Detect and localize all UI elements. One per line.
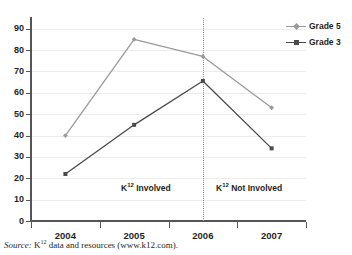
source-suffix: data and resources (www.k12.com). [46,240,178,250]
legend-label: Grade 5 [306,21,341,31]
y-tick-mark [26,114,31,115]
source-label: Source: [4,240,32,250]
chart-legend: Grade 5Grade 3 [286,18,352,50]
legend-item-grade-5: Grade 5 [286,18,352,34]
y-tick-mark [26,221,31,222]
y-tick-mark [26,71,31,72]
chart-figure: 0102030405060708090 K12 Involved K12 Not… [0,0,352,255]
legend-swatch-icon [286,37,306,47]
legend-swatch-icon [286,21,306,31]
legend-label: Grade 3 [306,37,341,47]
data-point-grade-3-2006 [201,79,205,83]
y-tick-mark [26,136,31,137]
data-point-grade-3-2007 [270,146,274,150]
data-point-grade-3-2005 [132,123,136,127]
source-note: Source: K12 data and resources (www.k12.… [4,240,178,251]
y-tick-mark [26,178,31,179]
y-tick-mark [26,157,31,158]
y-tick-mark [26,200,31,201]
y-tick-mark [26,93,31,94]
y-tick-mark [26,50,31,51]
data-point-grade-3-2004 [63,172,67,176]
series-line-grade-5 [65,39,271,135]
legend-item-grade-3: Grade 3 [286,34,352,50]
series-line-grade-3 [65,81,271,174]
y-tick-mark [26,29,31,30]
